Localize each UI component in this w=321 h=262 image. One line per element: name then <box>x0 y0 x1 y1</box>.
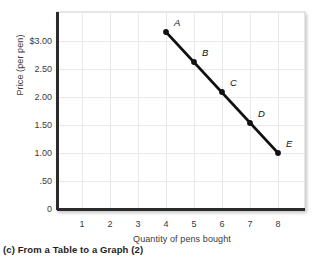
data-point-e <box>275 150 281 156</box>
x-tick-label: 5 <box>191 219 196 229</box>
data-point-c <box>219 89 225 95</box>
x-tick-label: 8 <box>275 219 280 229</box>
y-tick-label: 2.50 <box>34 64 52 74</box>
x-tick-labels: 1 2 3 4 5 6 7 8 <box>79 219 280 229</box>
x-tick-label: 7 <box>247 219 252 229</box>
data-point-label-d: D <box>258 108 265 119</box>
data-point-d <box>247 120 253 126</box>
data-point-label-e: E <box>286 138 293 149</box>
x-tick-label: 6 <box>219 219 224 229</box>
y-tick-label: 0 <box>47 204 52 214</box>
x-tick-label: 3 <box>135 219 140 229</box>
x-tick-label: 2 <box>107 219 112 229</box>
chart-plot: 0 .50 1.00 1.50 2.00 2.50 $3.00 1 2 3 4 … <box>0 0 321 262</box>
data-point-label-c: C <box>230 77 237 88</box>
y-tick-label: $3.00 <box>29 36 52 46</box>
data-point-b <box>191 59 197 65</box>
x-tick-label: 1 <box>79 219 84 229</box>
y-tick-labels: 0 .50 1.00 1.50 2.00 2.50 $3.00 <box>29 36 52 214</box>
x-tick-label: 4 <box>163 219 168 229</box>
y-tick-label: 2.00 <box>34 92 52 102</box>
y-tick-label: .50 <box>39 176 52 186</box>
data-point-label-b: B <box>202 47 209 58</box>
plot-frame <box>57 12 305 210</box>
y-tick-label: 1.00 <box>34 148 52 158</box>
figure-caption: (c) From a Table to a Graph (2) <box>3 244 143 255</box>
data-point-label-a: A <box>173 17 180 28</box>
y-tick-label: 1.50 <box>34 120 52 130</box>
figure-container: Price (per pen) Quantity of pens bought <box>0 0 321 262</box>
data-point-a <box>163 29 169 35</box>
